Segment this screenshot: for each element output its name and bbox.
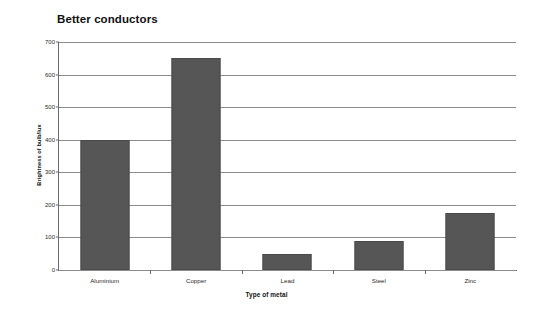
x-tick-mark <box>333 270 334 274</box>
x-tick-label: Lead <box>281 277 295 284</box>
y-tick-label: 100 <box>45 234 55 240</box>
bar[interactable] <box>172 58 221 270</box>
y-tick-label: 200 <box>45 202 55 208</box>
bar[interactable] <box>446 213 495 270</box>
x-tick-label: Copper <box>186 277 206 284</box>
bar[interactable] <box>354 241 403 270</box>
bar-slot <box>425 42 516 270</box>
x-tick-mark <box>425 270 426 274</box>
bar[interactable] <box>263 254 312 270</box>
x-tick-mark <box>150 270 151 274</box>
bar-slot <box>150 42 241 270</box>
bar[interactable] <box>80 140 129 270</box>
bar-slot <box>59 42 150 270</box>
bar-slot <box>242 42 333 270</box>
y-tick-label: 300 <box>45 169 55 175</box>
y-tick-label: 500 <box>45 104 55 110</box>
gridline <box>59 270 516 271</box>
bar-slot <box>333 42 424 270</box>
y-tick-label: 600 <box>45 72 55 78</box>
x-tick-label: Zinc <box>464 277 476 284</box>
y-tick-label: 400 <box>45 137 55 143</box>
plot-area: 7006005004003002001000 <box>59 42 516 270</box>
y-tick-label: 700 <box>45 39 55 45</box>
x-tick-label: Aluminium <box>90 277 119 284</box>
chart-title: Better conductors <box>57 13 158 25</box>
x-axis-title: Type of metal <box>0 291 533 298</box>
bar-chart: Better conductors Brightness of bulb/lux… <box>0 0 533 315</box>
x-tick-mark <box>242 270 243 274</box>
y-axis-title: Brightness of bulb/lux <box>36 85 42 225</box>
y-tick-label: 0 <box>52 267 55 273</box>
x-tick-label: Steel <box>372 277 386 284</box>
